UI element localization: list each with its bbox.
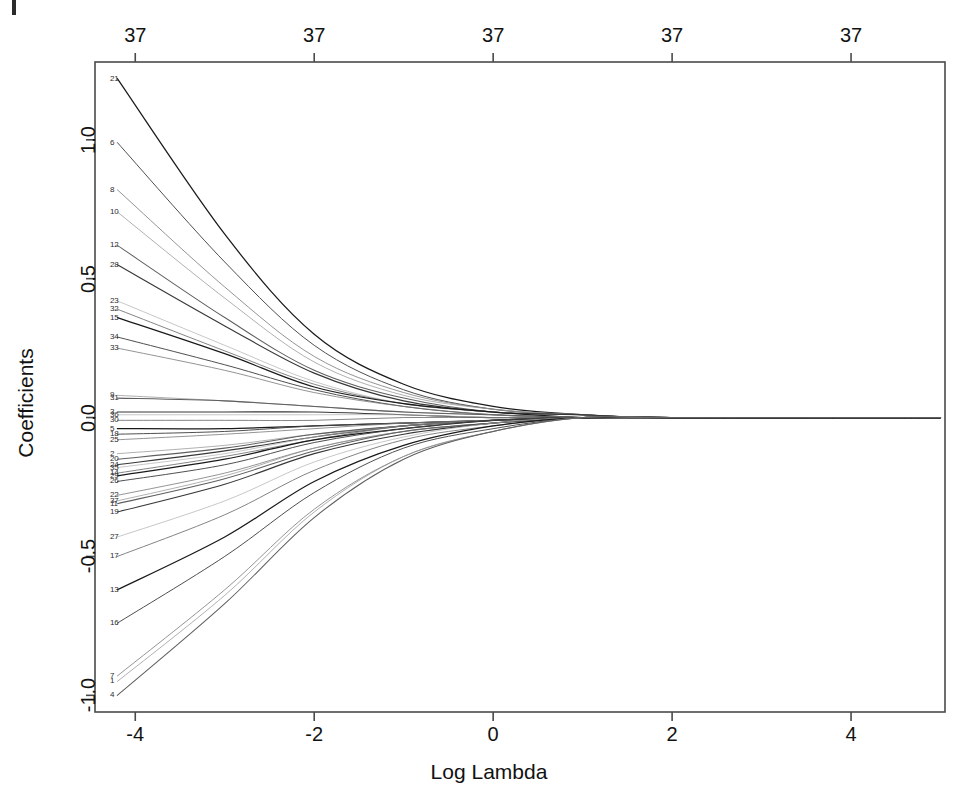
curve-index-label: 31 — [110, 394, 118, 402]
top-tick-label: 37 — [482, 24, 504, 47]
curve-index-label: 6 — [110, 139, 114, 147]
y-tick-label: 1.0 — [77, 140, 100, 168]
y-tick-label: 0.0 — [77, 418, 100, 446]
top-tick-label: 37 — [661, 24, 683, 47]
curve-index-label: 1 — [110, 677, 114, 685]
plot-frame — [95, 62, 945, 712]
curve-index-label: 27 — [110, 533, 118, 541]
top-tick-label: 37 — [124, 24, 146, 47]
coefficient-path-plot — [0, 0, 978, 806]
top-tick-label: 37 — [840, 24, 862, 47]
x-axis-title: Log Lambda — [0, 760, 978, 784]
x-tick-label: -2 — [305, 723, 323, 746]
top-tick-label: 37 — [303, 24, 325, 47]
curve-index-label: 4 — [110, 691, 114, 699]
curve-index-label: 34 — [110, 333, 118, 341]
curve-index-label: 10 — [110, 208, 118, 216]
regularization-path-figure: 3737373737 -4-2024 -1.0-0.50.00.51.0 216… — [0, 0, 978, 806]
curve-index-label: 25 — [110, 436, 118, 444]
curve-index-label: 28 — [110, 261, 118, 269]
x-tick-label: 4 — [845, 723, 856, 746]
y-tick-label: -1.0 — [77, 695, 100, 729]
y-tick-label: 0.5 — [77, 279, 100, 307]
curve-index-label: 12 — [110, 241, 118, 249]
y-tick-label: -0.5 — [77, 556, 100, 590]
curve-index-label: 19 — [110, 508, 118, 516]
x-tick-label: 2 — [667, 723, 678, 746]
x-tick-label: -4 — [126, 723, 144, 746]
curve-index-label: 13 — [110, 586, 118, 594]
curve-index-label: 26 — [110, 477, 118, 485]
axis-ticks — [86, 53, 851, 721]
coefficient-curves — [117, 79, 940, 696]
curve-index-label: 21 — [110, 75, 118, 83]
curve-index-label: 15 — [110, 314, 118, 322]
curve-index-label: 33 — [110, 344, 118, 352]
curve-index-label: 16 — [110, 619, 118, 627]
x-tick-label: 0 — [488, 723, 499, 746]
curve-index-label: 17 — [110, 552, 118, 560]
curve-index-label: 8 — [110, 186, 114, 194]
y-axis-title: Coefficients — [14, 303, 38, 503]
